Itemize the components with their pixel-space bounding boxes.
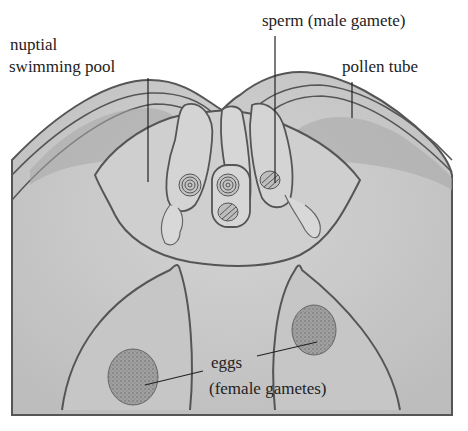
sperm-spiral-left [179,174,201,196]
sperm-spiral-center [217,174,239,196]
egg-left [108,349,158,405]
sperm-striped-center [218,203,238,221]
gamete-diagram: nuptial swimming pool sperm (male gamete… [0,0,468,431]
egg-right [292,305,336,355]
label-eggs-line1: eggs [211,353,242,372]
label-sperm: sperm (male gamete) [262,11,406,30]
sperm-striped-right [260,171,280,189]
label-nuptial-line2: swimming pool [9,57,116,76]
label-eggs-line2: (female gametes) [209,379,327,398]
label-pollen-tube: pollen tube [342,57,418,76]
label-nuptial-line1: nuptial [10,35,57,54]
bottom-margin [0,416,468,431]
